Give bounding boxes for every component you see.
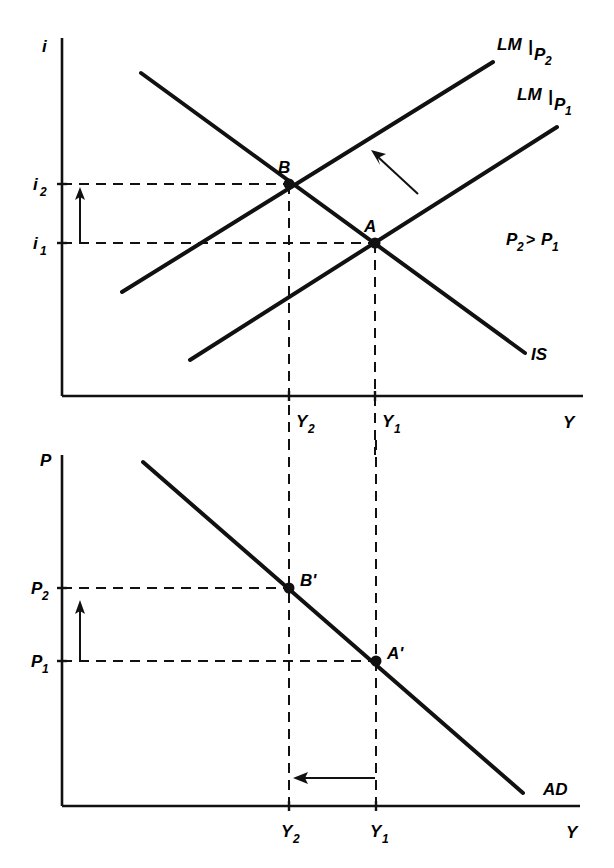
tick-label-i1-sub: 1 <box>40 244 47 258</box>
bottom-y-axis-label: P <box>40 451 52 470</box>
note-operator: > <box>526 231 535 248</box>
curve-label-lm-p2-bar: | <box>528 37 533 56</box>
point-b-prime-marker <box>284 583 295 594</box>
curve-label-lm-p2-main: LM <box>497 35 522 54</box>
tick-label-y2-top-sub: 2 <box>307 422 315 436</box>
point-a-prime-label: A' <box>386 644 404 663</box>
tick-label-p1-sub: 1 <box>42 662 49 676</box>
top-x-axis-label: Y <box>563 413 576 432</box>
note-p2-sub: 2 <box>516 240 524 254</box>
point-a-prime-marker <box>371 656 382 667</box>
point-b-prime-label: B' <box>300 571 317 590</box>
point-a-label: A <box>363 217 376 236</box>
point-a-marker <box>370 238 381 249</box>
curve-label-is: IS <box>531 345 548 364</box>
figure-background <box>0 0 614 868</box>
tick-label-y2-bottom-sub: 2 <box>292 832 300 846</box>
bottom-x-axis-label: Y <box>566 823 579 842</box>
curve-label-lm-p1-main: LM <box>517 85 542 104</box>
point-b-marker <box>284 179 295 190</box>
curve-label-ad: AD <box>542 780 568 799</box>
curve-label-lm-p1-bar: | <box>548 87 553 106</box>
curve-label-lm-p2-sub-index: 2 <box>544 54 552 68</box>
curve-label-lm-p1-sub-index: 1 <box>565 104 572 118</box>
is-lm-ad-figure: i Y LM | P 2 LM | P 1 <box>0 0 614 868</box>
point-b-label: B <box>278 158 290 177</box>
tick-label-y1-top-sub: 1 <box>394 422 401 436</box>
tick-label-y1-bottom-sub: 1 <box>382 832 389 846</box>
note-p1-sub: 1 <box>552 240 559 254</box>
tick-label-p2-sub: 2 <box>41 589 49 603</box>
tick-label-i2-sub: 2 <box>39 185 47 199</box>
